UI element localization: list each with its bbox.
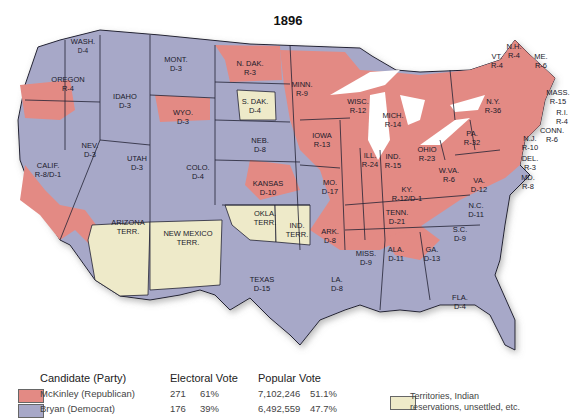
legend-candidate-republican: McKinley (Republican) bbox=[40, 388, 135, 399]
svg-text:NEV.D-3: NEV.D-3 bbox=[82, 141, 99, 159]
svg-text:MD.R-8: MD.R-8 bbox=[521, 173, 535, 191]
svg-text:CALIF.R-8/D-1: CALIF.R-8/D-1 bbox=[35, 161, 61, 179]
legend-electoral-pct-democrat: 39% bbox=[200, 403, 219, 414]
svg-text:N.J.R-10: N.J.R-10 bbox=[522, 134, 538, 152]
legend-electoral-pct-republican: 61% bbox=[200, 388, 219, 399]
legend-popular-republican: 7,102,246 bbox=[258, 388, 300, 399]
svg-text:WISC.R-12: WISC.R-12 bbox=[347, 97, 369, 115]
legend-electoral-republican: 271 bbox=[170, 388, 186, 399]
svg-text:DEL.R-3: DEL.R-3 bbox=[522, 154, 539, 172]
svg-text:CONN.R-6: CONN.R-6 bbox=[540, 126, 564, 144]
svg-text:N.Y.R-36: N.Y.R-36 bbox=[485, 97, 501, 115]
svg-text:VT.R-4: VT.R-4 bbox=[491, 52, 503, 70]
legend-territory-line2: reservations, unsettled, etc. bbox=[410, 402, 520, 412]
svg-text:S.C.D-9: S.C.D-9 bbox=[453, 225, 468, 243]
legend-popular-pct-democrat: 47.7% bbox=[310, 403, 337, 414]
svg-text:OKLA.TERR.: OKLA.TERR. bbox=[254, 209, 277, 227]
legend-popular-pct-republican: 51.1% bbox=[310, 388, 337, 399]
svg-text:TENN.D-21: TENN.D-21 bbox=[386, 208, 409, 226]
legend-header-candidate: Candidate (Party) bbox=[40, 372, 126, 384]
svg-text:R.I.R-4: R.I.R-4 bbox=[556, 108, 568, 126]
svg-text:IOWAR-13: IOWAR-13 bbox=[312, 131, 332, 149]
svg-text:MO.D-17: MO.D-17 bbox=[322, 178, 338, 196]
svg-text:N.H.R-4: N.H.R-4 bbox=[507, 42, 522, 60]
svg-text:PA.R-32: PA.R-32 bbox=[464, 129, 480, 147]
svg-text:ALA.D-11: ALA.D-11 bbox=[388, 245, 404, 263]
svg-text:MICH.R-14: MICH.R-14 bbox=[382, 111, 403, 129]
svg-text:GA.D-13: GA.D-13 bbox=[424, 245, 440, 263]
legend-popular-democrat: 6,492,559 bbox=[258, 403, 300, 414]
legend-header-popular: Popular Vote bbox=[258, 372, 321, 384]
us-election-map: WASH.D-4 OREGONR-4 CALIF.R-8/D-1 IDAHOD-… bbox=[0, 0, 576, 370]
legend-electoral-democrat: 176 bbox=[170, 403, 186, 414]
svg-text:N.C.D-11: N.C.D-11 bbox=[468, 201, 484, 219]
svg-text:FLA.D-4: FLA.D-4 bbox=[452, 293, 468, 311]
svg-text:ME.R-6: ME.R-6 bbox=[534, 52, 547, 70]
svg-text:OHIOR-23: OHIOR-23 bbox=[417, 145, 436, 163]
svg-text:VA.D-12: VA.D-12 bbox=[471, 176, 487, 194]
svg-text:LA.D-8: LA.D-8 bbox=[331, 275, 343, 293]
svg-text:MASS.R-15: MASS.R-15 bbox=[546, 88, 569, 106]
svg-text:IND.R-15: IND.R-15 bbox=[385, 152, 401, 170]
legend-territory-line1: Territories, Indian bbox=[410, 391, 479, 401]
svg-text:ILL.R-24: ILL.R-24 bbox=[362, 151, 378, 169]
legend-header-electoral: Electoral Vote bbox=[170, 372, 238, 384]
legend: Candidate (Party) Electoral Vote Popular… bbox=[0, 372, 576, 420]
legend-candidate-democrat: Bryan (Democrat) bbox=[40, 403, 115, 414]
